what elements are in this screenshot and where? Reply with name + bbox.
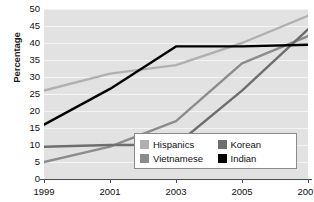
x-tick-mark bbox=[110, 179, 111, 183]
legend: HispanicsKoreanVietnameseIndian bbox=[134, 133, 297, 169]
line-chart-figure: Percentage 05101520253035404550 19992001… bbox=[0, 0, 314, 202]
y-tick-label: 45 bbox=[18, 20, 40, 31]
x-tick-mark bbox=[308, 179, 309, 183]
legend-swatch-icon bbox=[140, 154, 149, 163]
y-tick-label: 50 bbox=[18, 3, 40, 14]
legend-label: Indian bbox=[231, 153, 257, 164]
x-tick-label: 2005 bbox=[222, 186, 262, 197]
legend-entry-hispanics[interactable]: Hispanics bbox=[140, 139, 214, 150]
y-tick-label: 15 bbox=[18, 122, 40, 133]
legend-swatch-icon bbox=[218, 140, 227, 149]
legend-entry-indian[interactable]: Indian bbox=[218, 153, 292, 164]
legend-swatch-icon bbox=[218, 154, 227, 163]
legend-entry-vietnamese[interactable]: Vietnamese bbox=[140, 153, 214, 164]
legend-label: Korean bbox=[231, 139, 262, 150]
y-axis-tick-labels: 05101520253035404550 bbox=[18, 0, 40, 202]
x-tick-label: 2003 bbox=[156, 186, 196, 197]
legend-label: Vietnamese bbox=[153, 153, 203, 164]
y-tick-label: 35 bbox=[18, 54, 40, 65]
legend-swatch-icon bbox=[140, 140, 149, 149]
x-tick-mark bbox=[242, 179, 243, 183]
x-axis-tick-labels: 19992001200320052007 bbox=[0, 182, 314, 202]
legend-entry-korean[interactable]: Korean bbox=[218, 139, 292, 150]
y-tick-label: 10 bbox=[18, 139, 40, 150]
x-tick-mark bbox=[176, 179, 177, 183]
legend-label: Hispanics bbox=[153, 139, 194, 150]
y-tick-label: 5 bbox=[18, 156, 40, 167]
x-tick-label: 2001 bbox=[90, 186, 130, 197]
y-tick-label: 25 bbox=[18, 88, 40, 99]
y-tick-label: 20 bbox=[18, 105, 40, 116]
y-tick-label: 30 bbox=[18, 71, 40, 82]
x-tick-label: 1999 bbox=[24, 186, 64, 197]
y-tick-label: 40 bbox=[18, 37, 40, 48]
x-tick-mark bbox=[44, 179, 45, 183]
x-tick-label: 2007 bbox=[288, 186, 314, 197]
series-line-indian bbox=[44, 45, 308, 125]
